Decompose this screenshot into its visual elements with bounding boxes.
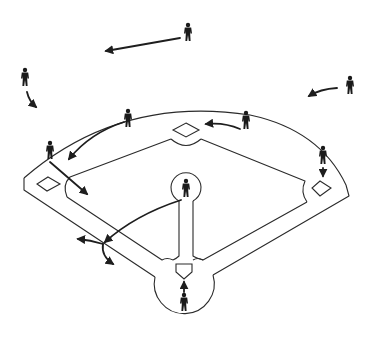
arrow-pitcher-throw-icon <box>105 200 181 242</box>
second-base-cutout <box>171 139 201 146</box>
player-icon-deep-outfielder-center <box>184 23 192 41</box>
player-icon-pitcher <box>182 179 190 197</box>
arrow-left-fielder-icon <box>27 92 36 107</box>
arrow-shortstop-icon <box>69 122 124 159</box>
field-outline <box>24 111 349 313</box>
arrow-third-baseman-icon <box>50 162 87 194</box>
mound-walkway-left <box>173 201 179 260</box>
infield-grass-right <box>201 139 307 202</box>
player-icon-catcher <box>180 293 188 311</box>
arrow-throw-branch-down-icon <box>103 244 113 264</box>
third-base <box>37 177 60 191</box>
arrow-center-to-left-icon <box>106 38 180 51</box>
mound-walkway-right <box>193 201 203 260</box>
player-icon-left-fielder <box>21 68 29 86</box>
player-icon-shortstop <box>124 109 132 127</box>
player-icon-right-fielder <box>346 76 354 94</box>
baseball-field-diagram <box>0 0 371 338</box>
first-base <box>312 181 331 196</box>
second-base <box>173 123 199 137</box>
movement-arrows <box>27 38 337 292</box>
outfield-arc <box>24 111 346 185</box>
arrow-right-fielder-icon <box>309 88 337 96</box>
first-base-line-outer <box>213 185 349 275</box>
third-base-line-outer <box>24 178 155 277</box>
home-plate <box>176 264 192 279</box>
first-base-line-inner <box>193 202 307 260</box>
arrow-second-baseman-icon <box>206 124 240 129</box>
